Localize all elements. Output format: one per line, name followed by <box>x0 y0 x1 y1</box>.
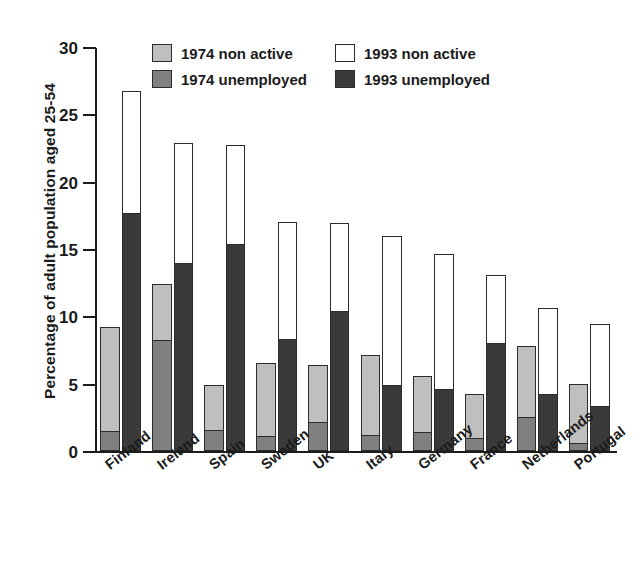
y-axis-tick-label: 15 <box>18 242 78 259</box>
segment-1974-unemployed <box>205 430 223 450</box>
segment-1993-non-active <box>123 92 141 213</box>
segment-1993-unemployed <box>227 244 245 450</box>
bar-1993[interactable] <box>122 91 142 451</box>
bar-1974[interactable] <box>256 363 276 451</box>
y-axis-tick <box>83 451 96 453</box>
bar-1974[interactable] <box>413 376 433 451</box>
legend-item[interactable]: 1993 non active <box>335 40 492 66</box>
bar-1993[interactable] <box>226 145 246 451</box>
legend-item[interactable]: 1974 unemployed <box>152 66 309 92</box>
segment-1993-non-active <box>435 255 453 388</box>
segment-1974-non-active <box>309 366 327 423</box>
plot-area: 051015202530 FinlandIrelandSpainSwedenUK… <box>96 48 617 452</box>
bar-group <box>361 47 402 451</box>
bar-1974[interactable] <box>100 327 120 451</box>
y-axis-tick <box>83 384 96 386</box>
bar-group <box>569 47 610 451</box>
y-axis-tick-label: 5 <box>18 377 78 394</box>
y-axis-tick-label: 10 <box>18 309 78 326</box>
bar-1993[interactable] <box>382 236 402 451</box>
chart-figure: Percentage of adult population aged 25-5… <box>0 0 643 574</box>
segment-1993-non-active <box>279 223 297 339</box>
segment-1974-non-active <box>205 386 223 430</box>
segment-1974-unemployed <box>414 432 432 450</box>
segment-1993-non-active <box>331 224 349 311</box>
bar-group <box>517 47 558 451</box>
bar-1993[interactable] <box>330 223 350 451</box>
bar-group <box>256 47 297 451</box>
segment-1974-unemployed <box>153 340 171 450</box>
segment-1974-non-active <box>153 285 171 340</box>
segment-1974-non-active <box>362 356 380 435</box>
bar-1993[interactable] <box>174 143 194 451</box>
legend-label: 1993 non active <box>364 45 476 62</box>
bar-group <box>465 47 506 451</box>
y-axis-tick-label: 25 <box>18 107 78 124</box>
bar-1974[interactable] <box>204 385 224 451</box>
bar-group <box>152 47 193 451</box>
legend-swatch-icon <box>335 44 355 62</box>
y-axis-tick <box>83 47 96 49</box>
y-axis-tick <box>83 249 96 251</box>
segment-1993-non-active <box>175 144 193 263</box>
segment-1993-non-active <box>591 325 609 406</box>
bar-1974[interactable] <box>152 284 172 451</box>
segment-1993-unemployed <box>175 263 193 450</box>
bar-group <box>100 47 141 451</box>
segment-1993-non-active <box>383 237 401 385</box>
segment-1993-non-active <box>487 276 505 344</box>
segment-1974-non-active <box>518 347 536 417</box>
bar-1993[interactable] <box>278 222 298 451</box>
segment-1974-non-active <box>414 377 432 432</box>
legend-swatch-icon <box>152 44 172 62</box>
y-axis-tick <box>83 182 96 184</box>
legend-item[interactable]: 1993 unemployed <box>335 66 492 92</box>
bar-1974[interactable] <box>361 355 381 451</box>
bar-1974[interactable] <box>517 346 537 451</box>
segment-1993-unemployed <box>383 385 401 450</box>
y-axis-tick <box>83 114 96 116</box>
bar-1993[interactable] <box>538 308 558 451</box>
segment-1993-non-active <box>227 146 245 244</box>
bar-1993[interactable] <box>434 254 454 451</box>
segment-1993-unemployed <box>123 213 141 450</box>
segment-1974-unemployed <box>101 431 119 450</box>
segment-1974-unemployed <box>518 417 536 450</box>
chart-legend: 1974 non active1993 non active1974 unemp… <box>152 40 492 92</box>
bar-group <box>308 47 349 451</box>
segment-1974-unemployed <box>309 422 327 450</box>
legend-swatch-icon <box>335 70 355 88</box>
legend-item[interactable]: 1974 non active <box>152 40 309 66</box>
legend-swatch-icon <box>152 70 172 88</box>
y-axis-tick-label: 20 <box>18 175 78 192</box>
legend-label: 1974 unemployed <box>181 71 307 88</box>
y-axis-tick <box>83 316 96 318</box>
bar-group <box>204 47 245 451</box>
legend-label: 1993 unemployed <box>364 71 490 88</box>
y-axis-tick-label: 0 <box>18 444 78 461</box>
segment-1974-non-active <box>257 364 275 435</box>
segment-1993-non-active <box>539 309 557 394</box>
legend-label: 1974 non active <box>181 45 293 62</box>
y-axis-tick-label: 30 <box>18 40 78 57</box>
segment-1993-unemployed <box>331 311 349 450</box>
bar-group <box>413 47 454 451</box>
bar-1993[interactable] <box>486 275 506 451</box>
segment-1974-non-active <box>101 328 119 431</box>
